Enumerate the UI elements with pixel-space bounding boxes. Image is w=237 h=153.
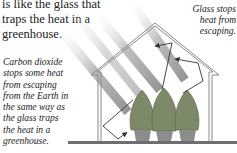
greenhouse-diagram — [0, 0, 237, 153]
plants — [130, 88, 199, 141]
ground — [68, 141, 237, 144]
